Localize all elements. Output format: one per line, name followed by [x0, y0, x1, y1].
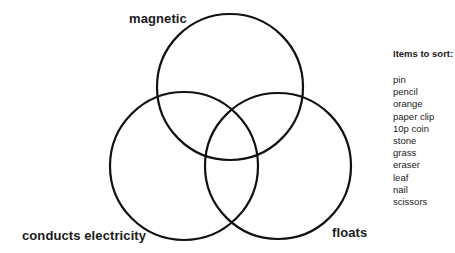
circle-floats — [205, 93, 351, 239]
list-item: pencil — [393, 86, 455, 98]
list-item: nail — [393, 184, 455, 196]
list-item: leaf — [393, 172, 455, 184]
list-item: 10p coin — [393, 123, 455, 135]
list-item: scissors — [393, 196, 455, 208]
items-list: pin pencil orange paper clip 10p coin st… — [393, 74, 455, 208]
list-item: orange — [393, 98, 455, 110]
circle-magnetic — [157, 14, 303, 160]
circle-conducts-electricity — [110, 92, 258, 240]
label-magnetic: magnetic — [129, 12, 187, 26]
list-item: eraser — [393, 159, 455, 171]
venn-diagram — [0, 0, 455, 253]
label-floats: floats — [332, 226, 367, 240]
list-item: paper clip — [393, 111, 455, 123]
list-item: grass — [393, 147, 455, 159]
list-item: stone — [393, 135, 455, 147]
items-panel: Items to sort: pin pencil orange paper c… — [393, 48, 455, 208]
label-conducts-electricity: conducts electricity — [22, 229, 146, 243]
list-item: pin — [393, 74, 455, 86]
items-title: Items to sort: — [393, 48, 455, 60]
